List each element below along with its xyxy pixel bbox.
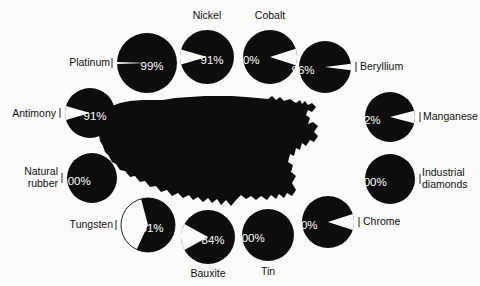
- pie-name-line-1: Industrial: [422, 166, 465, 178]
- us-map-silhouette: [98, 96, 318, 206]
- pie-bauxite[interactable]: 84%Bauxite: [181, 210, 235, 279]
- pie-name-label: Nickel: [193, 9, 222, 21]
- pie-name-line-2: diamonds: [422, 178, 468, 190]
- pie-name-line-1: Natural: [24, 165, 58, 177]
- pie-name-label: Tin: [261, 265, 275, 277]
- pie-ring-chart: 99%Platinum91%Nickel90%Cobalt96%Berylliu…: [0, 0, 480, 286]
- pie-name-label: Platinum: [69, 56, 110, 68]
- pie-name-label: Beryllium: [360, 60, 403, 72]
- pie-value-label: 91%: [83, 110, 106, 122]
- pie-name-line-2: rubber: [28, 177, 59, 189]
- pie-name-label: Industrialdiamonds: [422, 166, 468, 190]
- pie-antimony[interactable]: 91%Antimony: [12, 88, 115, 138]
- pie-value-label: 96%: [291, 64, 314, 76]
- infographic-canvas: 99%Platinum91%Nickel90%Cobalt96%Berylliu…: [0, 0, 480, 286]
- pie-value-label: 92%: [357, 114, 380, 126]
- pie-name-label: Bauxite: [190, 267, 225, 279]
- pie-value-label: 100%: [235, 232, 264, 244]
- pie-value-label: 99%: [140, 60, 163, 72]
- pie-name-label: Tungsten: [70, 218, 114, 230]
- pie-value-label: 84%: [201, 234, 224, 246]
- pie-platinum[interactable]: 99%Platinum: [69, 33, 177, 93]
- pie-manganese[interactable]: 92%Manganese: [357, 92, 478, 142]
- pie-name-label: Antimony: [12, 107, 57, 119]
- pie-tin[interactable]: 100%Tin: [235, 209, 294, 277]
- pie-value-label: 90%: [236, 54, 259, 66]
- pie-name-label: Cobalt: [255, 9, 285, 21]
- pie-name-label: Chrome: [363, 215, 401, 227]
- pie-name-label: Manganese: [423, 110, 478, 122]
- pie-nickel[interactable]: 91%Nickel: [180, 9, 234, 84]
- pie-cobalt[interactable]: 90%Cobalt: [236, 9, 297, 84]
- pie-value-label: 100%: [61, 175, 90, 187]
- pie-chrome[interactable]: 90%Chrome: [294, 196, 400, 248]
- pie-value-label: 90%: [294, 219, 317, 231]
- pie-industrial-diamonds[interactable]: 100%Industrialdiamonds: [357, 154, 467, 204]
- pie-value-label: 61%: [140, 222, 163, 234]
- pie-natural-rubber[interactable]: 100%Naturalrubber: [24, 153, 117, 203]
- pie-name-label: Naturalrubber: [24, 165, 58, 189]
- pie-value-label: 100%: [357, 176, 386, 188]
- pie-value-label: 91%: [200, 54, 223, 66]
- pie-tungsten[interactable]: 61%Tungsten: [70, 198, 175, 252]
- pie-beryllium[interactable]: 96%Beryllium: [291, 41, 403, 93]
